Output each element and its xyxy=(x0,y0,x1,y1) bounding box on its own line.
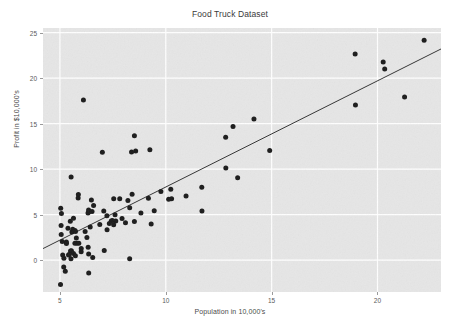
x-tick-label: 20 xyxy=(374,297,381,304)
data-point xyxy=(88,224,93,229)
data-point xyxy=(107,221,112,226)
data-point xyxy=(64,240,69,245)
y-tick-mark xyxy=(40,124,43,125)
y-axis-label-container: Profit in $10,000's xyxy=(13,39,27,199)
data-point xyxy=(84,235,89,240)
y-tick-mark xyxy=(40,33,43,34)
y-tick-label: 25 xyxy=(21,29,37,36)
data-point xyxy=(102,248,107,253)
data-point xyxy=(199,209,204,214)
y-tick-label: 5 xyxy=(21,211,37,218)
data-point xyxy=(100,150,105,155)
data-point xyxy=(97,222,102,227)
data-point xyxy=(382,67,387,72)
data-point xyxy=(70,227,75,232)
data-point xyxy=(76,192,81,197)
data-point xyxy=(184,193,189,198)
data-point xyxy=(132,133,137,138)
plot-area xyxy=(43,28,441,292)
data-point xyxy=(132,219,137,224)
data-point xyxy=(73,253,78,258)
data-point xyxy=(127,256,132,261)
data-point xyxy=(123,220,128,225)
data-point xyxy=(235,175,240,180)
y-tick-mark xyxy=(40,169,43,170)
data-point xyxy=(90,209,95,214)
data-point xyxy=(223,135,228,140)
data-point xyxy=(223,166,228,171)
data-point xyxy=(74,235,79,240)
chart-figure: Food Truck Dataset 5101520 0510152025 Po… xyxy=(0,0,460,328)
x-axis-label: Population in 10,000's xyxy=(0,308,460,315)
data-point xyxy=(89,198,94,203)
x-tick-mark xyxy=(272,292,273,295)
data-point xyxy=(147,147,152,152)
data-point xyxy=(63,269,68,274)
data-point xyxy=(125,198,130,203)
data-point xyxy=(113,219,118,224)
x-tick-label: 10 xyxy=(162,297,169,304)
data-point xyxy=(152,208,157,213)
chart-title: Food Truck Dataset xyxy=(0,9,460,19)
data-point xyxy=(146,196,151,201)
data-point xyxy=(353,52,358,57)
plot-canvas xyxy=(43,28,441,292)
data-point xyxy=(60,239,65,244)
data-point xyxy=(58,206,63,211)
data-point xyxy=(104,213,109,218)
y-tick-label: 0 xyxy=(21,257,37,264)
data-point xyxy=(117,196,122,201)
data-point xyxy=(81,97,86,102)
data-point xyxy=(61,256,66,261)
data-point xyxy=(86,251,91,256)
y-tick-mark xyxy=(40,215,43,216)
data-point xyxy=(120,216,125,221)
data-point xyxy=(65,226,70,231)
data-point xyxy=(353,102,358,107)
data-point xyxy=(138,211,143,216)
data-point xyxy=(149,222,154,227)
x-tick-mark xyxy=(60,292,61,295)
data-point xyxy=(105,227,110,232)
data-point xyxy=(422,38,427,43)
x-tick-mark xyxy=(166,292,167,295)
data-point xyxy=(58,282,63,287)
data-point xyxy=(69,175,74,180)
data-point xyxy=(83,229,88,234)
data-point xyxy=(199,185,204,190)
data-point xyxy=(101,209,106,214)
data-point xyxy=(71,216,76,221)
data-point xyxy=(86,245,91,250)
data-point xyxy=(267,148,272,153)
data-point xyxy=(59,223,64,228)
data-point xyxy=(130,192,135,197)
data-point xyxy=(86,271,91,276)
data-point xyxy=(59,211,64,216)
data-point xyxy=(90,255,95,260)
data-point xyxy=(59,232,64,237)
data-point xyxy=(113,212,118,217)
data-point xyxy=(402,94,407,99)
y-axis-label: Profit in $10,000's xyxy=(13,39,20,199)
data-point xyxy=(231,124,236,129)
data-point xyxy=(61,264,66,269)
data-point xyxy=(158,189,163,194)
data-point xyxy=(91,203,96,208)
regression-line xyxy=(43,49,441,249)
data-point xyxy=(67,252,72,257)
x-tick-mark xyxy=(377,292,378,295)
scatter-points xyxy=(58,38,427,287)
x-tick-label: 5 xyxy=(58,297,62,304)
data-point xyxy=(72,241,77,246)
data-point xyxy=(111,196,116,201)
x-tick-label: 15 xyxy=(268,297,275,304)
data-point xyxy=(133,148,138,153)
y-tick-mark xyxy=(40,78,43,79)
data-point xyxy=(251,116,256,121)
data-point xyxy=(169,196,174,201)
data-point xyxy=(381,59,386,64)
data-point xyxy=(127,205,132,210)
y-tick-mark xyxy=(40,260,43,261)
data-point xyxy=(79,249,84,254)
data-point xyxy=(168,187,173,192)
